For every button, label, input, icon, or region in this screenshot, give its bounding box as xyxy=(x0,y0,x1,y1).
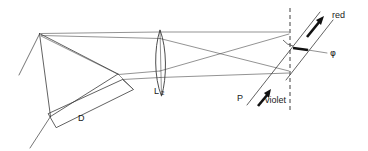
ray-vertex-to-lens-a xyxy=(119,71,161,75)
prism-base-face xyxy=(51,74,119,117)
dispersing-element-d xyxy=(49,80,134,128)
plate-label: P xyxy=(237,93,243,103)
ray-bundle-lower xyxy=(119,34,290,89)
ray-lens-to-plate-b xyxy=(160,73,289,78)
ray-apex-to-lens-top xyxy=(41,32,160,34)
grating-body xyxy=(49,80,134,128)
red-label: red xyxy=(332,10,345,20)
external-rays-left xyxy=(19,34,51,148)
ray-lens-to-plate-a xyxy=(160,34,289,71)
phi-label: φ xyxy=(330,48,336,58)
ray-grating-corner-connector xyxy=(119,75,134,90)
grating-label: D xyxy=(78,113,85,123)
incoming-ray-upper xyxy=(19,34,40,75)
violet-label: violet xyxy=(265,95,287,105)
red-arrow-shaft xyxy=(307,21,320,37)
plate-surface-line xyxy=(247,12,320,105)
ray-apex-to-lens-second xyxy=(42,36,161,39)
lens-label: L xyxy=(154,86,159,96)
ray-grating-to-lens-b xyxy=(123,78,161,80)
lens-label-subscript: 2 xyxy=(161,90,165,96)
lens-l2-axis xyxy=(160,30,162,96)
prism-left-face xyxy=(40,34,51,117)
prism-right-face xyxy=(40,34,119,75)
optical-diagram-canvas: L 2 red φ violet P xyxy=(0,0,368,151)
ray-apex-to-grating xyxy=(41,36,119,75)
phi-angle-arc xyxy=(283,40,293,46)
phi-arrow-shaft xyxy=(293,48,308,50)
optical-diagram-root: L 2 red φ violet P xyxy=(0,0,368,151)
ray-lens-to-plate-second xyxy=(160,39,289,72)
outgoing-ray-lower xyxy=(30,117,51,149)
red-beam-arrow xyxy=(307,16,324,37)
phi-leader-line xyxy=(308,50,327,53)
prism-component xyxy=(40,34,119,117)
